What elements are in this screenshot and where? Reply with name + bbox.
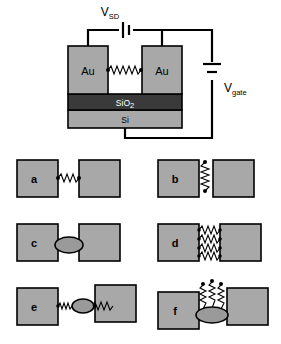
source-drain-circuit-wire: [88, 30, 162, 46]
vsd-label: VSD: [101, 5, 120, 21]
vgate-label-text: V: [224, 81, 232, 95]
panel-e-left-electrode: [17, 288, 58, 325]
panel-a-label: a: [31, 173, 38, 185]
vgate-battery-icon: [203, 64, 221, 72]
device-bridging-molecule: [106, 66, 143, 74]
panel-e-label: e: [31, 301, 37, 313]
panel-a-right-electrode: [79, 160, 120, 197]
panel-f-label: f: [173, 305, 177, 317]
panel-c-nanoparticle: [55, 237, 83, 253]
panel-b-molecule: [201, 160, 209, 193]
panel-f-right-electrode: [227, 288, 268, 325]
vsd-label-text: V: [101, 5, 109, 19]
figure-molecular-junction-schematic: VSD Si SiO2 Au Au Vgate: [0, 0, 281, 344]
panel-c-label: c: [31, 237, 37, 249]
panel-c-left-electrode: [17, 224, 58, 261]
panel-a: a: [17, 160, 120, 197]
device-cross-section: VSD Si SiO2 Au Au Vgate: [68, 5, 247, 138]
vgate-label-subscript: gate: [232, 88, 247, 97]
panel-a-left-electrode: [17, 160, 58, 197]
panel-a-molecule: [56, 174, 81, 182]
panel-d-molecules: [197, 226, 222, 260]
substrate-si-label: Si: [121, 115, 129, 125]
panel-e-nanoparticle: [72, 299, 94, 313]
panel-f: f: [158, 279, 268, 329]
panel-b-left-electrode: [158, 160, 199, 197]
panel-b-right-electrode: [213, 160, 254, 197]
vgate-label: Vgate: [224, 81, 247, 97]
panel-e: e: [17, 285, 136, 325]
svg-text:VSD: VSD: [101, 5, 120, 21]
panel-f-left-electrode: [158, 292, 199, 329]
vsd-battery-icon: [123, 22, 129, 38]
panel-d: d: [158, 224, 261, 261]
vsd-label-subscript: SD: [109, 12, 120, 21]
panel-b: b: [158, 160, 254, 197]
electrode-source-label: Au: [81, 65, 94, 77]
panel-b-label: b: [172, 173, 179, 185]
panel-f-nanoparticle: [196, 307, 228, 323]
panel-d-right-electrode: [220, 224, 261, 261]
panel-c-right-electrode: [79, 224, 120, 261]
panel-d-left-electrode: [158, 224, 199, 261]
panel-c: c: [17, 224, 120, 261]
electrode-drain-label: Au: [155, 65, 168, 77]
panel-d-label: d: [172, 237, 179, 249]
